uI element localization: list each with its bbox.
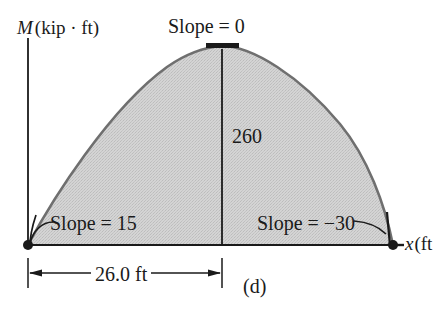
m-axis-units: (kip · ft) bbox=[35, 17, 99, 38]
m-axis-label: M(kip · ft) bbox=[17, 18, 99, 37]
x-axis-label: x(ft bbox=[405, 234, 432, 253]
peak-moment-label: 260 bbox=[232, 126, 262, 146]
zero-slope-tangent-bar bbox=[206, 43, 239, 48]
dimension-arrow-left bbox=[29, 270, 42, 277]
moment-diagram-canvas bbox=[0, 0, 441, 316]
left-support-point bbox=[23, 240, 33, 250]
bending-moment-figure: M(kip · ft) x(ft Slope = 0 Slope = 15 Sl… bbox=[0, 0, 441, 316]
figure-part-label: (d) bbox=[243, 276, 266, 296]
dimension-arrow-right bbox=[208, 270, 221, 277]
span-dimension-label: 26.0 ft bbox=[91, 264, 151, 284]
x-axis-units: (ft bbox=[414, 233, 432, 254]
right-slope-label: Slope = −30 bbox=[257, 213, 355, 233]
left-slope-label: Slope = 15 bbox=[50, 213, 137, 233]
m-axis-symbol: M bbox=[17, 17, 35, 38]
apex-slope-label: Slope = 0 bbox=[168, 16, 245, 36]
